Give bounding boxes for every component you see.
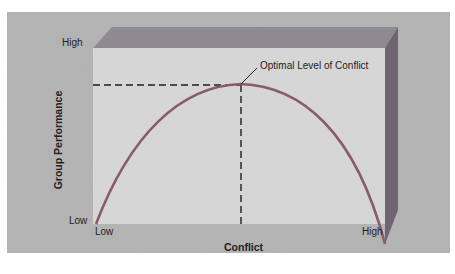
x-tick-low: Low bbox=[95, 226, 113, 237]
y-axis-label: Group Performance bbox=[52, 91, 64, 190]
bevel-side bbox=[385, 27, 398, 244]
x-tick-high: High bbox=[362, 226, 383, 237]
x-axis-label: Conflict bbox=[224, 241, 263, 253]
optimal-annotation: Optimal Level of Conflict bbox=[260, 60, 368, 71]
diagram-stage: High Low Low High Conflict Group Perform… bbox=[0, 0, 455, 274]
y-tick-high: High bbox=[62, 37, 83, 48]
y-tick-low: Low bbox=[69, 215, 87, 226]
plot-face bbox=[93, 48, 385, 224]
bevel-top bbox=[93, 27, 398, 48]
